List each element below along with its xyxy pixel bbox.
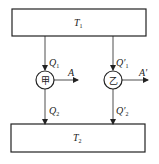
engine-right: Q′1 乙 A′ Q′2 [104, 36, 148, 124]
work-out-label-right: A′ [138, 67, 148, 78]
bottom-reservoir: T2 [11, 124, 145, 152]
work-out-label-left: A [67, 67, 75, 78]
heat-engine-diagram: T1 T2 Q1 甲 A Q2 Q′1 乙 A′ Q′2 [0, 0, 159, 164]
engine-right-name: 乙 [109, 76, 118, 86]
top-reservoir: T1 [12, 9, 146, 36]
heat-in-label-left: Q1 [49, 57, 59, 69]
heat-out-label-left: Q2 [49, 105, 59, 117]
heat-in-label-right: Q′1 [116, 57, 128, 69]
heat-out-label-right: Q′2 [116, 105, 128, 117]
engine-left: Q1 甲 A Q2 [36, 36, 78, 124]
engine-left-name: 甲 [41, 76, 50, 86]
